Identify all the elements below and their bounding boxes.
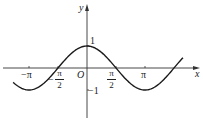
x-tick-label-neg-pi: −π [21, 70, 32, 80]
y-tick-label-neg1: −1 [88, 86, 99, 96]
x-tick-label-neg-half-pi-sign: − [48, 75, 54, 85]
x-tick-label-pi: π [141, 70, 146, 80]
frac-den: 2 [109, 80, 114, 90]
y-axis-label: y [79, 3, 83, 13]
x-axis-label: x [195, 69, 199, 79]
y-axis-arrow-icon [85, 4, 89, 11]
cosine-plot [0, 0, 203, 126]
frac-num: π [57, 68, 62, 78]
x-tick-label-neg-half-pi: π 2 [55, 69, 64, 90]
x-tick-label-half-pi: π 2 [107, 69, 116, 90]
frac-den: 2 [57, 80, 62, 90]
frac-num: π [109, 68, 114, 78]
y-tick-label-1: 1 [90, 36, 95, 46]
origin-label: O [77, 70, 84, 80]
